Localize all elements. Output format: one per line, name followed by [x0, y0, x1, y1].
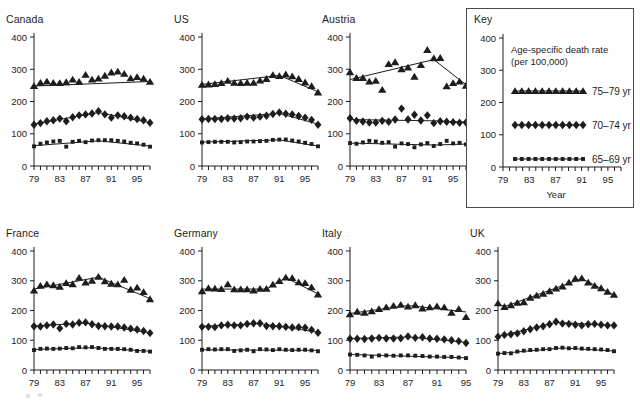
svg-text:95: 95 [603, 174, 614, 185]
svg-text:79: 79 [345, 173, 356, 184]
svg-text:0: 0 [338, 365, 343, 376]
figure-canvas: Canada 01002003004007983879195 US 010020… [0, 0, 640, 405]
page-artifact [24, 392, 50, 399]
svg-text:91: 91 [576, 174, 587, 185]
svg-text:79: 79 [197, 377, 208, 388]
panel-france: France 01002003004007983879195 [6, 228, 156, 404]
svg-text:79: 79 [29, 173, 40, 184]
svg-text:400: 400 [11, 32, 27, 43]
svg-text:400: 400 [179, 246, 195, 257]
svg-text:83: 83 [54, 377, 65, 388]
svg-text:100: 100 [475, 335, 491, 346]
svg-text:83: 83 [374, 377, 385, 388]
svg-text:0: 0 [22, 365, 27, 376]
key-label-70-74: 70–74 yr [592, 120, 631, 131]
panel-title-canada: Canada [6, 14, 156, 25]
plot-svg-uk: 01002003004007983879195 [470, 239, 620, 404]
key-label-75-79: 75–79 yr [592, 86, 631, 97]
svg-text:83: 83 [54, 173, 65, 184]
panel-title-austria: Austria [322, 14, 472, 25]
svg-text:87: 87 [80, 173, 91, 184]
panel-title-italy: Italy [322, 228, 472, 239]
svg-text:400: 400 [475, 246, 491, 257]
key-label-65-69: 65–69 yr [592, 154, 631, 165]
svg-text:87: 87 [80, 377, 91, 388]
svg-text:200: 200 [327, 305, 343, 316]
key-row-70-74: 70–74 yr [511, 119, 631, 131]
key-panel: Key 01002003004007983879195 Age-specific… [466, 8, 634, 208]
svg-text:91: 91 [570, 377, 581, 388]
panel-us: US 01002003004007983879195 [174, 14, 324, 200]
svg-text:87: 87 [544, 377, 555, 388]
svg-text:95: 95 [132, 377, 143, 388]
svg-text:91: 91 [106, 173, 117, 184]
key-x-axis-caption: Year [511, 189, 601, 200]
svg-text:83: 83 [524, 174, 535, 185]
svg-text:0: 0 [190, 161, 195, 172]
svg-text:200: 200 [179, 305, 195, 316]
svg-text:91: 91 [432, 377, 443, 388]
triangle-marker-icon [511, 85, 587, 97]
svg-text:83: 83 [222, 173, 233, 184]
key-row-75-79: 75–79 yr [511, 85, 631, 97]
svg-text:400: 400 [11, 246, 27, 257]
square-marker-icon [511, 153, 587, 165]
svg-text:100: 100 [327, 128, 343, 139]
plot-canada: 01002003004007983879195 [6, 25, 156, 200]
svg-text:200: 200 [11, 96, 27, 107]
plot-italy: 01002003004007983879195 [322, 239, 472, 404]
svg-text:100: 100 [179, 128, 195, 139]
plot-svg-us: 01002003004007983879195 [174, 25, 324, 200]
panel-germany: Germany 01002003004007983879195 [174, 228, 324, 404]
svg-text:95: 95 [300, 377, 311, 388]
key-note-line-1: Age-specific death rate [511, 44, 608, 56]
panel-italy: Italy 01002003004007983879195 [322, 228, 472, 404]
svg-text:400: 400 [480, 33, 496, 44]
svg-text:300: 300 [179, 64, 195, 75]
svg-text:100: 100 [11, 128, 27, 139]
plot-uk: 01002003004007983879195 [470, 239, 620, 404]
svg-text:87: 87 [403, 377, 414, 388]
svg-text:200: 200 [475, 305, 491, 316]
key-row-65-69: 65–69 yr [511, 153, 631, 165]
svg-text:87: 87 [248, 173, 259, 184]
plot-svg-france: 01002003004007983879195 [6, 239, 156, 404]
svg-text:87: 87 [550, 174, 561, 185]
svg-text:95: 95 [448, 173, 459, 184]
panel-title-germany: Germany [174, 228, 324, 239]
svg-text:300: 300 [480, 65, 496, 76]
plot-austria: 01002003004007983879195 [322, 25, 472, 200]
svg-text:300: 300 [327, 64, 343, 75]
svg-text:300: 300 [179, 275, 195, 286]
svg-text:0: 0 [22, 161, 27, 172]
svg-text:200: 200 [480, 97, 496, 108]
svg-text:91: 91 [274, 377, 285, 388]
plot-france: 01002003004007983879195 [6, 239, 156, 404]
key-title: Key [474, 14, 492, 25]
plot-svg-austria: 01002003004007983879195 [322, 25, 472, 200]
svg-text:100: 100 [179, 335, 195, 346]
svg-text:400: 400 [179, 32, 195, 43]
svg-text:100: 100 [480, 129, 496, 140]
plot-germany: 01002003004007983879195 [174, 239, 324, 404]
svg-text:200: 200 [11, 305, 27, 316]
panel-uk: UK 01002003004007983879195 [470, 228, 620, 404]
panel-title-france: France [6, 228, 156, 239]
key-note-line-2: (per 100,000) [511, 56, 608, 68]
svg-text:83: 83 [222, 377, 233, 388]
svg-text:91: 91 [274, 173, 285, 184]
svg-text:87: 87 [396, 173, 407, 184]
svg-text:95: 95 [132, 173, 143, 184]
diamond-marker-icon [511, 119, 587, 131]
svg-text:400: 400 [327, 32, 343, 43]
svg-text:0: 0 [190, 365, 195, 376]
svg-text:79: 79 [197, 173, 208, 184]
svg-text:91: 91 [106, 377, 117, 388]
svg-text:300: 300 [475, 275, 491, 286]
svg-text:0: 0 [486, 365, 491, 376]
plot-svg-germany: 01002003004007983879195 [174, 239, 324, 404]
svg-text:0: 0 [338, 161, 343, 172]
svg-text:79: 79 [493, 377, 504, 388]
panel-title-uk: UK [470, 228, 620, 239]
svg-text:200: 200 [327, 96, 343, 107]
